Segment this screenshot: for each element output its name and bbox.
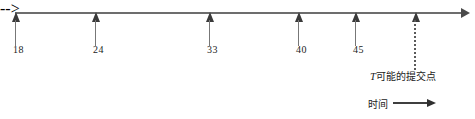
tick-stem <box>209 20 210 46</box>
annotation-label: T可能的提交点 <box>370 68 436 83</box>
legend-arrow-icon <box>393 99 437 107</box>
tick-arrowhead-icon <box>352 12 360 22</box>
tick-stem <box>355 20 356 46</box>
timeline-figure: 18 24 33 40 45 T可能的提交点 --> 时间 <box>0 0 475 119</box>
tick-stem <box>298 20 299 46</box>
legend-arrow-head <box>427 99 436 107</box>
tick-stem <box>15 20 16 46</box>
legend-arrow-shaft <box>393 102 429 104</box>
time-direction-legend: 时间 <box>368 97 437 109</box>
tick-label-5: 45 <box>353 44 364 55</box>
tick-label-3: 33 <box>207 44 218 55</box>
tick-arrowhead-icon <box>12 12 20 22</box>
tick-label-4: 40 <box>296 44 307 55</box>
tick-label-1: 18 <box>13 44 24 55</box>
tick-arrowhead-icon <box>295 12 303 22</box>
time-axis-line <box>15 12 467 14</box>
tick-label-2: 24 <box>93 44 104 55</box>
time-axis-arrowhead-icon <box>461 8 470 18</box>
tick-dotted-leader-line <box>414 20 416 72</box>
tick-arrowhead-icon <box>92 12 100 22</box>
tick-stem <box>95 20 96 46</box>
tick-arrowhead-icon <box>206 12 214 22</box>
legend-label-time: 时间 <box>368 96 388 111</box>
annotation-text: 可能的提交点 <box>376 71 436 82</box>
